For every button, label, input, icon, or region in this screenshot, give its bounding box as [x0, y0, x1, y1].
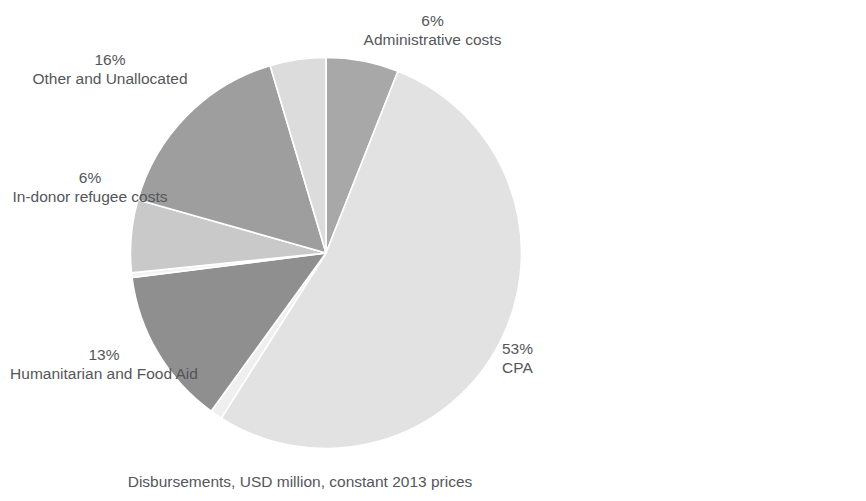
pie-slice-group [131, 58, 522, 449]
callout-label: Other and Unallocated [20, 69, 200, 88]
callout-percent: 6% [360, 11, 505, 30]
pie-chart[interactable] [130, 57, 522, 449]
callout-percent: 13% [0, 345, 208, 364]
callout-cpa: 53% CPA [502, 339, 572, 377]
callout-percent: 6% [0, 168, 180, 187]
callout-label: In-donor refugee costs [0, 187, 180, 206]
callout-label: Humanitarian and Food Aid [0, 364, 208, 383]
callout-percent: 16% [20, 50, 200, 69]
callout-administrative-costs: 6% Administrative costs [360, 11, 505, 49]
side-panel: Disb defl 108,023 TypeOfFlow Administrat… [600, 0, 866, 501]
callout-label: Administrative costs [360, 30, 505, 49]
callout-label: CPA [502, 358, 572, 377]
callout-humanitarian-and-food-aid: 13% Humanitarian and Food Aid [0, 345, 208, 383]
chart-panel: 6% Administrative costs 16% Other and Un… [0, 0, 600, 501]
pie-svg [130, 57, 522, 449]
pie-chart-view: 6% Administrative costs 16% Other and Un… [0, 0, 866, 501]
callout-percent: 53% [502, 339, 572, 358]
axis-caption: Disbursements, USD million, constant 201… [0, 473, 600, 491]
callout-other-and-unallocated: 16% Other and Unallocated [20, 50, 200, 88]
callout-in-donor-refugee-costs: 6% In-donor refugee costs [0, 168, 180, 206]
